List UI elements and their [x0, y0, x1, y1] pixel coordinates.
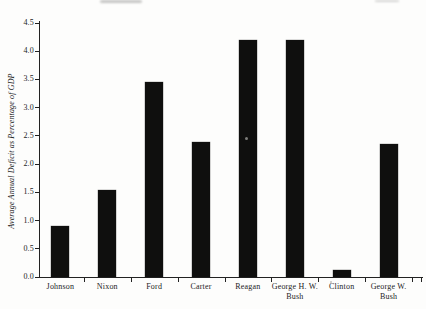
y-tick-0.5 — [35, 248, 40, 249]
y-tick-label-4.5: 4.5 — [12, 18, 34, 28]
bar-clinton — [333, 270, 351, 277]
y-tick-label-2.5: 2.5 — [12, 131, 34, 141]
bar-johnson — [51, 226, 69, 277]
y-tick-4.5 — [35, 23, 40, 24]
y-tick-0.0 — [35, 277, 40, 278]
y-tick-1.5 — [35, 192, 40, 193]
bar-nixon — [98, 190, 116, 278]
y-tick-label-3.0: 3.0 — [12, 103, 34, 113]
y-tick-label-2.0: 2.0 — [12, 159, 34, 169]
y-tick-2.5 — [35, 135, 40, 136]
y-tick-label-0.5: 0.5 — [12, 244, 34, 254]
y-tick-label-4.0: 4.0 — [12, 46, 34, 56]
x-tick-axis-end — [421, 278, 422, 282]
y-axis-line — [39, 21, 40, 277]
y-tick-4.0 — [35, 51, 40, 52]
scanned-book-page: Average Annual Deficit as Percentage of … — [0, 0, 426, 309]
scan-artifact-speck-on-reagan-bar — [245, 137, 248, 140]
y-tick-label-1.5: 1.5 — [12, 187, 34, 197]
y-tick-label-0.0: 0.0 — [12, 272, 34, 282]
bar-george-w-bush — [380, 144, 398, 277]
y-tick-2.0 — [35, 164, 40, 165]
y-tick-3.0 — [35, 107, 40, 108]
y-tick-3.5 — [35, 79, 40, 80]
scan-artifact-speck-below-axis — [330, 281, 332, 283]
bar-carter — [192, 142, 210, 278]
y-tick-label-1.0: 1.0 — [12, 216, 34, 226]
y-tick-label-3.5: 3.5 — [12, 74, 34, 84]
bar-reagan — [239, 40, 257, 277]
y-tick-1.0 — [35, 220, 40, 221]
category-label-george-w-bush: George W. Bush — [357, 282, 421, 301]
y-axis-title: Average Annual Deficit as Percentage of … — [7, 61, 19, 241]
bar-george-h-w-bush — [286, 40, 304, 277]
deficit-by-president-bar-chart: Average Annual Deficit as Percentage of … — [0, 0, 426, 309]
bar-ford — [145, 82, 163, 277]
